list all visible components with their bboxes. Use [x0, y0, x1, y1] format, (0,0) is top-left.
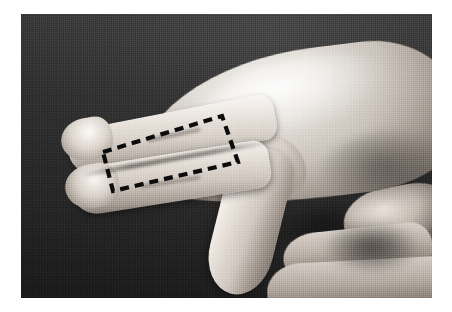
far-hand-gap-shadow [313, 220, 431, 274]
photograph [21, 14, 432, 298]
figure-root [0, 0, 452, 312]
hand-subject [21, 14, 432, 298]
